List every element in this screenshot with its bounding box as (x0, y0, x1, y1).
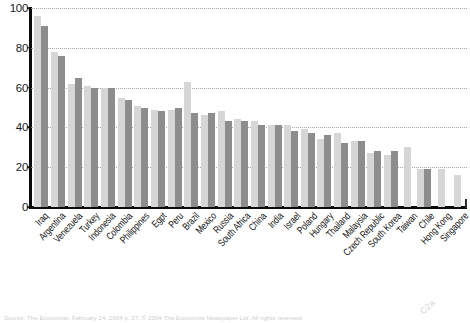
bar-group (250, 8, 267, 207)
bar (268, 125, 275, 207)
bar-group (300, 8, 317, 207)
bar (241, 121, 248, 207)
bar (151, 110, 158, 208)
bar (404, 147, 411, 207)
bar-group (266, 8, 283, 207)
bar-group (349, 8, 366, 207)
bar (454, 175, 461, 207)
bar (158, 111, 165, 207)
bar-group (83, 8, 100, 207)
bar-group (233, 8, 250, 207)
bar (324, 135, 331, 207)
y-tick-label-100: 100 (1, 2, 28, 14)
bar-group (100, 8, 117, 207)
x-axis-label: Egpt (148, 210, 167, 229)
bar (251, 121, 258, 207)
y-tick-label-80: 80 (1, 42, 28, 54)
bar (317, 139, 324, 207)
bar (134, 106, 141, 207)
x-axis-category-labels: IraqArgentinaVenezuelaTurkeyIndonesiaCol… (31, 210, 467, 305)
bar (41, 26, 48, 207)
bar (108, 88, 115, 207)
bar-group (366, 8, 383, 207)
bar-chart: 020406080100 IraqArgentinaVenezuelaTurke… (0, 0, 470, 323)
bar-group (50, 8, 67, 207)
bar (391, 151, 398, 207)
bar-group (150, 8, 167, 207)
bar (284, 125, 291, 207)
bar (234, 119, 241, 207)
bar (301, 129, 308, 207)
y-axis-labels: 020406080100 (0, 0, 28, 323)
bar-group (33, 8, 50, 207)
bar (291, 131, 298, 207)
bar (184, 82, 191, 207)
y-tick-label-0: 0 (1, 201, 28, 213)
bar (175, 108, 182, 208)
bar (101, 88, 108, 207)
bar (58, 56, 65, 207)
bar-group (116, 8, 133, 207)
bar (201, 115, 208, 207)
bar (218, 111, 225, 207)
bar (275, 125, 282, 207)
bar (125, 100, 132, 207)
bar (358, 141, 365, 207)
y-tick-label-60: 60 (1, 82, 28, 94)
bar-group (449, 8, 466, 207)
bar-groups (31, 8, 467, 207)
bar (191, 113, 198, 207)
bar-group (383, 8, 400, 207)
bar (367, 153, 374, 207)
x-axis-label-text: Egpt (149, 210, 169, 230)
bar (118, 98, 125, 207)
bar-group (133, 8, 150, 207)
source-credit: Source: The Economist, February 14, 2004… (4, 315, 466, 322)
bar (141, 108, 148, 208)
bar (51, 52, 58, 207)
bar (438, 169, 445, 207)
bar-group (66, 8, 83, 207)
bar (208, 113, 215, 207)
bar (225, 121, 232, 207)
y-tick-label-20: 20 (1, 161, 28, 173)
bar (258, 125, 265, 207)
bar (34, 16, 41, 207)
bar (384, 155, 391, 207)
bar (84, 86, 91, 207)
y-tick-label-40: 40 (1, 121, 28, 133)
bar (424, 169, 431, 207)
bar (334, 133, 341, 207)
bar (341, 143, 348, 207)
plot-area (31, 8, 467, 207)
bar-group (399, 8, 416, 207)
bar-group (416, 8, 433, 207)
bar-group (166, 8, 183, 207)
bar (91, 88, 98, 207)
bar-group (183, 8, 200, 207)
bar-group (333, 8, 350, 207)
bar (75, 78, 82, 207)
bar-group (283, 8, 300, 207)
bar (168, 110, 175, 208)
bar (308, 133, 315, 207)
bar (351, 141, 358, 207)
bar (417, 169, 424, 207)
bar-group (200, 8, 217, 207)
bar-group (316, 8, 333, 207)
bar (68, 84, 75, 207)
bar-group (216, 8, 233, 207)
bar (374, 151, 381, 207)
bar-group (433, 8, 450, 207)
